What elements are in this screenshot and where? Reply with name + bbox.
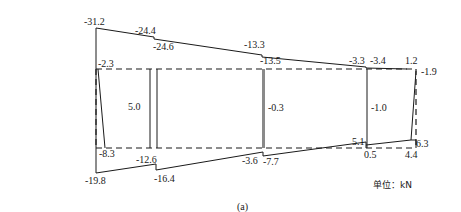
label-top: -24.6: [153, 42, 174, 52]
label-lower: -12.6: [136, 155, 157, 165]
label-lower: 0.5: [364, 150, 377, 160]
label-top: -24.4: [135, 26, 156, 36]
label-web: 5.0: [128, 102, 141, 112]
gray-web-bar: [262, 69, 265, 148]
label-top-right: -1.9: [421, 67, 437, 77]
structure-outline: [96, 69, 416, 148]
label-top: -13.3: [244, 40, 265, 50]
label-lower: 5.1: [352, 137, 365, 147]
label-top-left: -31.2: [84, 17, 105, 27]
label-top: 1.2: [405, 56, 418, 66]
label-web: -0.3: [268, 103, 284, 113]
label-lower: -8.3: [99, 149, 115, 159]
left-column-force-line: [98, 69, 105, 148]
label-top: -13.5: [260, 56, 281, 66]
unit-label: 单位：kN: [373, 181, 412, 190]
label-lower-right: 6.3: [416, 139, 429, 149]
web-members: [150, 69, 367, 148]
label-top: -3.4: [370, 56, 386, 66]
label-upper-left: -2.3: [98, 59, 114, 69]
label-bottom-left: -19.8: [85, 176, 106, 186]
label-lower: -7.7: [263, 157, 279, 167]
figure-caption: (a): [237, 202, 248, 212]
force-diagram: -31.2 -24.4 -24.6 -13.3 -13.5 -3.3 -3.4 …: [0, 0, 461, 212]
label-lower: -3.6: [242, 156, 258, 166]
right-column-force-line: [411, 71, 416, 140]
label-web: -1.0: [371, 103, 387, 113]
label-lower: 4.4: [405, 150, 418, 160]
label-bottom: -16.4: [154, 174, 175, 184]
label-top: -3.3: [349, 56, 365, 66]
